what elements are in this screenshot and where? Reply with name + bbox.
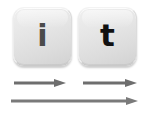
keycap-i-label: i [37, 21, 47, 51]
arrow-right-icon-short-right [83, 77, 137, 89]
keycap-i[interactable]: i [13, 7, 72, 66]
arrow-right-icon-short-left [14, 77, 66, 89]
keycap-t-label: t [100, 20, 115, 51]
keycaps-figure: i t [0, 0, 146, 114]
keycap-row: i t [0, 0, 146, 72]
keycap-t[interactable]: t [78, 7, 137, 66]
arrow-right-icon-long [11, 95, 138, 107]
